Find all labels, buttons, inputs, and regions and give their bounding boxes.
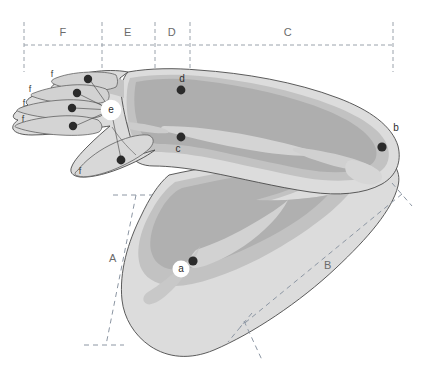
segment-label-e: E [124,26,132,38]
segment-labels: F E D C [59,26,292,38]
point-label-d: d [179,73,185,84]
point-label-e: e [108,104,114,115]
anatomical-figure: F E D C [0,0,435,371]
marker-d [177,86,186,95]
segment-label-f: F [59,26,66,38]
segment-label-d: D [168,26,176,38]
marker-finger-2 [73,89,81,97]
top-guide-lines [24,22,393,72]
marker-finger-3 [68,104,76,112]
finger-label-1: f [51,69,54,79]
marker-thumb [117,156,126,165]
point-label-a: a [178,263,184,274]
segment-label-c: C [284,26,292,38]
marker-b [377,142,386,151]
marker-finger-1 [84,75,92,83]
marker-finger-4 [69,122,77,130]
bracket-label-a: A [109,252,117,264]
marker-a [188,256,197,265]
finger-label-2: f [29,84,32,94]
bracket-label-b: B [324,259,332,271]
point-label-c: c [176,143,181,154]
marker-c [177,133,186,142]
diagram-canvas: F E D C [0,0,435,371]
point-label-b: b [393,122,399,133]
